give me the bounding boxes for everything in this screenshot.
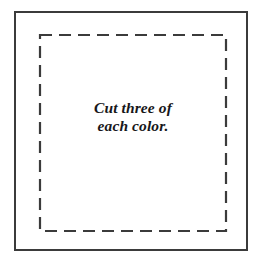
template-outer-frame: Cut three of each color. [14,11,248,251]
instruction-text-block: Cut three of each color. [16,99,250,134]
pattern-sheet: Cut three of each color. [0,0,262,265]
instruction-line-1: Cut three of [16,99,250,117]
instruction-line-2: each color. [16,117,250,135]
